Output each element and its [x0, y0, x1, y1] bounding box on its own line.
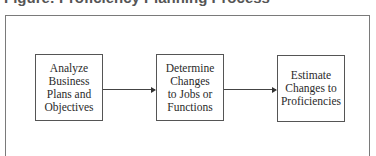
- step-label: Estimate Changes to Proficiencies: [281, 69, 341, 108]
- arrow-2-to-3: [224, 89, 276, 90]
- arrow-1-to-2: [103, 89, 155, 90]
- step-label: Analyze Business Plans and Objectives: [44, 62, 93, 114]
- step-estimate-changes: Estimate Changes to Proficiencies: [277, 55, 345, 122]
- step-analyze-business-plans: Analyze Business Plans and Objectives: [35, 54, 103, 121]
- step-determine-changes: Determine Changes to Jobs or Functions: [156, 54, 224, 121]
- step-label: Determine Changes to Jobs or Functions: [166, 62, 215, 114]
- diagram-title: Figure: Proficiency Planning Process: [4, 0, 270, 6]
